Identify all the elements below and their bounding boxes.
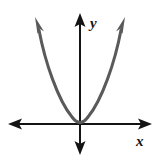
- y-axis-label: y: [88, 15, 97, 31]
- graph-figure: y x: [0, 0, 160, 164]
- coordinate-plane-svg: y x: [0, 0, 160, 164]
- x-axis-label: x: [135, 133, 144, 149]
